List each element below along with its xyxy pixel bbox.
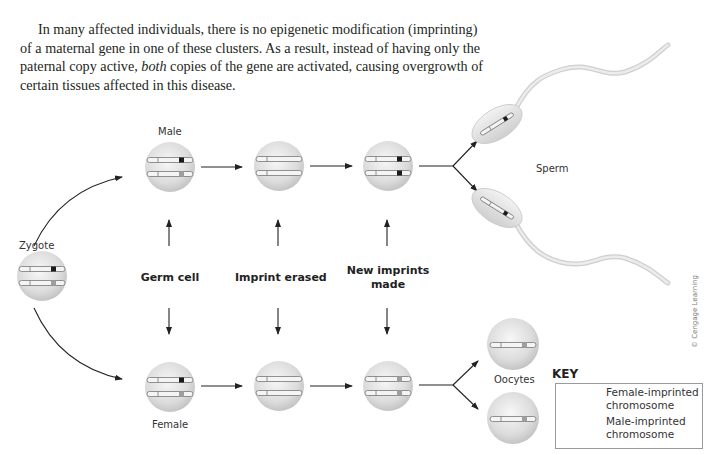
sperm-arrow-down [453,166,477,191]
copyright-credit: © Cengage Learning [691,275,699,348]
oocyte-arrow-up [453,361,478,385]
oocyte-arrow-down [453,385,478,409]
male-new-imprint-cell [363,141,413,191]
key-title: KEY [552,367,578,381]
zygote-label: Zygote [19,240,54,251]
stage-new-imprints-line1: New imprints [345,264,431,278]
key-female-line1: Female-imprinted [606,386,699,399]
male-erased-cell [254,141,304,191]
key-male-line2: chromosome [606,428,686,441]
female-new-imprint-cell [363,361,413,411]
male-germ-cell [145,142,195,192]
key-item-male: Male-imprinted chromosome [606,415,686,440]
zygote-to-female-arrow [34,308,122,379]
sperm-upper [465,45,668,152]
stage-germ-cell-label: Germ cell [135,271,205,284]
female-label: Female [152,419,188,430]
stage-new-imprints-label: New imprints made [345,264,431,292]
female-erased-cell [254,361,304,411]
female-germ-cell [145,362,195,412]
zygote-cell [17,251,67,301]
oocyte-lower [487,392,539,444]
stage-new-imprints-line2: made [345,278,431,292]
sperm-arrow-up [453,141,477,166]
sperm-lower [465,180,668,283]
oocytes-label: Oocytes [494,374,535,385]
oocyte-upper [487,318,539,370]
key-item-female: Female-imprinted chromosome [606,386,699,411]
stage-imprint-erased-label: Imprint erased [235,271,325,284]
key-female-line2: chromosome [606,399,699,412]
key-male-line1: Male-imprinted [606,415,686,428]
zygote-to-male-arrow [34,177,122,246]
male-label: Male [158,126,182,137]
sperm-label: Sperm [536,163,569,174]
